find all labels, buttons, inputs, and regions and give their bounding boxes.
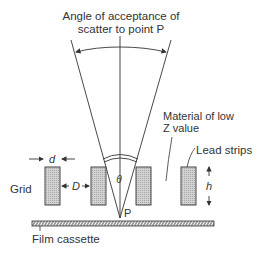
title-line-1: Angle of acceptance of <box>63 10 181 22</box>
lead-strip-1 <box>45 167 60 205</box>
P-label: P <box>124 207 131 219</box>
film-cassette <box>32 221 214 226</box>
d-label: d <box>49 153 56 165</box>
lead-strip-4 <box>181 167 196 205</box>
lead-strips-label: Lead strips <box>196 144 253 156</box>
lead-strip-2 <box>91 167 106 205</box>
theta-arc-inner <box>104 158 137 162</box>
material-label-line-1: Material of low <box>163 110 234 122</box>
lead-strip-3 <box>136 167 151 205</box>
film-cassette-label: Film cassette <box>32 233 100 245</box>
material-leader-line <box>166 137 172 181</box>
lead-strips-leader-line <box>187 148 195 167</box>
h-label: h <box>206 180 212 192</box>
material-label-line-2: Z value <box>163 122 199 134</box>
title-line-2: scatter to point P <box>78 23 165 35</box>
grid-scatter-diagram: Angle of acceptance of scatter to point … <box>0 0 262 257</box>
acceptance-arc-arrow <box>76 47 120 52</box>
grid-label: Grid <box>10 183 32 195</box>
D-label: D <box>72 180 80 192</box>
theta-label: θ <box>116 174 122 185</box>
acceptance-arc-arrow-right <box>120 47 166 52</box>
